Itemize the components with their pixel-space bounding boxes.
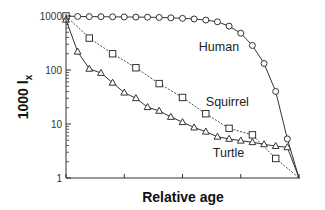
y-axis-title-subscript: x — [23, 74, 34, 80]
triangle-marker — [109, 79, 116, 85]
circle-marker — [168, 15, 174, 21]
square-marker — [179, 94, 185, 100]
series-label-squirrel: Squirrel — [206, 95, 249, 109]
y-tick-label: 1000 — [40, 11, 63, 22]
series-label-turtle: Turtle — [213, 146, 245, 160]
plot-area: HumanSquirrelTurtle — [63, 13, 299, 178]
y-tick-label: 1 — [56, 173, 62, 184]
survivorship-chart: HumanSquirrelTurtle 1101001000 Relative … — [0, 0, 325, 210]
y-axis-title-main: 1000 l — [15, 80, 31, 119]
circle-marker — [98, 14, 104, 20]
circle-marker — [156, 14, 162, 20]
series-squirrel: Squirrel — [63, 13, 299, 178]
circle-marker — [214, 19, 220, 25]
square-marker — [226, 125, 232, 131]
square-marker — [133, 65, 139, 71]
circle-marker — [110, 14, 116, 20]
circle-marker — [75, 13, 81, 19]
triangle-marker — [167, 113, 174, 119]
circle-marker — [226, 23, 232, 29]
square-marker — [249, 132, 255, 138]
y-tick-label: 100 — [45, 65, 62, 76]
x-axis-title: Relative age — [142, 189, 224, 205]
circle-marker — [121, 14, 127, 20]
circle-marker — [203, 17, 209, 23]
square-marker — [273, 155, 279, 161]
circle-marker — [273, 88, 279, 94]
y-tick-label: 10 — [51, 119, 63, 130]
circle-marker — [238, 30, 244, 36]
square-marker — [156, 80, 162, 86]
circle-marker — [284, 136, 290, 142]
circle-marker — [249, 42, 255, 48]
axes: 1101001000 — [40, 11, 300, 184]
y-axis-title: 1000 lx — [15, 74, 34, 119]
circle-marker — [261, 60, 267, 66]
circle-marker — [145, 14, 151, 20]
triangle-marker — [121, 89, 128, 95]
series-label-human: Human — [199, 40, 239, 54]
svg-text:1000 lx: 1000 lx — [15, 74, 34, 119]
circle-marker — [191, 16, 197, 22]
circle-marker — [133, 14, 139, 20]
triangle-marker — [144, 104, 151, 110]
square-marker — [203, 111, 209, 117]
square-marker — [109, 51, 115, 57]
circle-marker — [180, 15, 186, 21]
circle-marker — [86, 14, 92, 20]
triangle-marker — [74, 48, 81, 54]
square-marker — [86, 35, 92, 41]
